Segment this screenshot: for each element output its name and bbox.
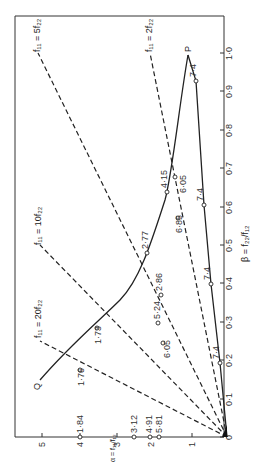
svg-text:6·05: 6·05 [162,340,172,358]
label-f11-2f22: f₁₁ = 2f₂₂ [144,18,154,52]
label-Q: Q [32,383,42,390]
label-P: P [183,46,193,52]
beta-tick-8: 0·8 [224,124,234,137]
alpha-tick-1: 1 [187,442,197,447]
svg-text:4·15: 4·15 [159,170,169,188]
svg-text:7·4: 7·4 [202,267,212,280]
label-f11-10f22: f₁₁ = 10f₂₂ [33,206,43,245]
svg-text:4·91: 4·91 [144,415,154,433]
label-f11-20f22: f₁₁ = 20f₂₂ [33,299,43,338]
beta-tick-10: 1·0 [224,47,234,60]
svg-text:6·85: 6·85 [174,215,184,233]
beta-tick-6: 0·6 [224,201,234,214]
beta-tick-4: 0·4 [224,277,234,290]
alpha-tick-5: 5 [37,442,47,447]
svg-text:1·76: 1·76 [76,368,86,386]
line-f11-10f22 [40,245,227,437]
svg-text:6·05: 6·05 [178,175,188,193]
svg-text:5·24: 5·24 [152,301,162,319]
beta-tick-7: 0·7 [224,162,234,175]
line-f11-5f22 [38,53,227,437]
alpha-tick-4: 4 [75,442,85,447]
beta-tick-1: 0·1 [224,393,234,406]
curve-q-p [40,55,188,380]
plot-frame [15,16,224,437]
beta-tick-5: 0·5 [224,239,234,252]
svg-text:1·73: 1·73 [93,326,103,344]
alpha-axis-label: α = f₁₁/f₁₂ [109,434,116,462]
svg-text:7·4: 7·4 [211,346,221,359]
svg-text:3·12: 3·12 [129,415,139,433]
svg-text:7·4: 7·4 [195,188,205,201]
label-f11-5f22: f₁₁ = 5f₂₂ [32,18,42,52]
svg-text:7·4: 7·4 [188,64,198,77]
line-f11-2f22 [150,53,227,437]
beta-axis-label: β = f₂₂/f₁₂ [240,225,250,262]
svg-text:2·86: 2·86 [154,273,164,291]
beta-tick-3: 0·3 [224,316,234,329]
svg-text:2·77: 2·77 [140,231,150,249]
chart: 0 0·1 0·2 0·3 0·4 0·5 0·6 0·7 0·8 0·9 1·… [0,0,270,469]
beta-tick-2: 0·2 [224,354,234,367]
beta-tick-9: 0·9 [224,85,234,98]
curve-p-origin [188,55,227,437]
svg-text:1·84: 1·84 [75,415,85,433]
svg-text:5·81: 5·81 [154,415,164,433]
alpha-tick-2: 2 [146,442,156,447]
